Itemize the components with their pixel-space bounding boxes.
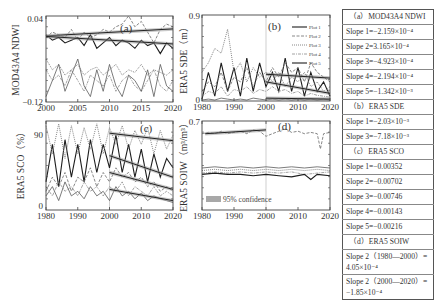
slope-row: Slope 3=−7.18×10⁻³ xyxy=(343,130,434,145)
slope-row: （d）ERA5 SOIW xyxy=(343,235,434,250)
slope-value: Slope 2（1980—2000）= 4.05×10⁻⁴ xyxy=(343,250,434,275)
panel-a-ylabel: MOD43A4 NDWI xyxy=(11,24,21,96)
x-tick-label: 2020 xyxy=(164,103,183,113)
slope-section-header: （d）ERA5 SOIW xyxy=(343,235,434,250)
x-tick-label: 1980 xyxy=(193,211,212,221)
slope-row: Slope 5=−1.342×10⁻³ xyxy=(343,85,434,100)
slope-row: （c）ERA5 SCO xyxy=(343,145,434,160)
slope-row: （b）ERA5 SDE xyxy=(343,100,434,115)
x-tick-label: 2000 xyxy=(37,103,56,113)
confidence-label: 95% confidence xyxy=(223,195,272,204)
slope-value: Slope 2（2000—2020）= −1.85×10⁻⁴ xyxy=(343,275,434,300)
slope-value: Slope 2=3.165×10⁻⁴ xyxy=(343,40,434,55)
slope-row: Slope 2=−0.00702 xyxy=(343,175,434,190)
x-tick-label: 1990 xyxy=(69,211,88,221)
x-tick-label: 1980 xyxy=(193,102,212,112)
x-tick-label: 2005 xyxy=(69,103,88,113)
panel-a-ytick-top: 0.04 xyxy=(27,14,43,24)
slope-row: Slope 5=−0.00216 xyxy=(343,220,434,235)
legend-label: Plot 5 xyxy=(309,61,321,66)
slope-row: Slope 1=−2.159×10⁻⁴ xyxy=(343,25,434,40)
panel-c-ytick-bottom: 0 xyxy=(39,201,44,211)
slope-value: Slope 2=−0.00702 xyxy=(343,175,434,190)
legend-label: Plot 2 xyxy=(309,34,321,39)
slope-section-header: （b）ERA5 SDE xyxy=(343,100,434,115)
slope-value: Slope 1=−2.03×10⁻³ xyxy=(343,115,434,130)
slope-table: （a）MOD43A4 NDWISlope 1=−2.159×10⁻⁴Slope … xyxy=(342,9,434,300)
slope-row: Slope 3=−0.00746 xyxy=(343,190,434,205)
slope-value: Slope 3=−4.923×10⁻⁴ xyxy=(343,55,434,70)
panel-b-tag: (b) xyxy=(268,20,281,33)
panel-c: ERA5 SCO（%） 90 0 19801990200020102020(c) xyxy=(15,121,183,221)
slope-section-header: （a）MOD43A4 NDWI xyxy=(343,10,434,25)
x-tick-label: 2010 xyxy=(101,103,120,113)
slope-value: Slope 3=−0.00746 xyxy=(343,190,434,205)
panel-d-tag: (d) xyxy=(278,120,291,133)
x-tick-label: 2000 xyxy=(257,211,276,221)
slope-row: Slope 4=−0.00143 xyxy=(343,205,434,220)
slope-row: Slope 1=−0.00352 xyxy=(343,160,434,175)
slope-value: Slope 5=−1.342×10⁻³ xyxy=(343,85,434,100)
slope-row: Slope 1=−2.03×10⁻³ xyxy=(343,115,434,130)
x-tick-label: 2010 xyxy=(132,211,151,221)
panel-a-tag: (a) xyxy=(120,22,133,35)
slope-row: Slope 4=−2.194×10⁻⁴ xyxy=(343,70,434,85)
legend-label: Plot 3 xyxy=(309,43,321,48)
series-plot-4 xyxy=(46,70,173,92)
panel-d-ytick-top: 0.7 xyxy=(189,117,201,127)
x-tick-label: 2010 xyxy=(289,102,308,112)
panel-b: ERA5 SDE（m） 0.9 0 19801990200020102020Pl… xyxy=(178,11,340,112)
x-tick-label: 2000 xyxy=(257,102,276,112)
legend-label: Plot 1 xyxy=(309,25,321,30)
slope-value: Slope 4=−2.194×10⁻⁴ xyxy=(343,70,434,85)
panel-c-tag: (c) xyxy=(140,122,153,135)
x-tick-label: 1990 xyxy=(225,102,244,112)
x-tick-label: 2020 xyxy=(321,102,340,112)
panel-c-ylabel: ERA5 SCO（%） xyxy=(15,127,26,200)
panel-c-ytick-top: 90 xyxy=(34,130,44,140)
panel-d-ylabel: ERA5 SOIW（m³/m³） xyxy=(178,118,189,212)
trend-line xyxy=(46,29,173,36)
panel-b-ylabel: ERA5 SDE（m） xyxy=(178,22,189,93)
slope-row: Slope 3=−4.923×10⁻⁴ xyxy=(343,55,434,70)
slope-value: Slope 1=−0.00352 xyxy=(343,160,434,175)
trend-line xyxy=(110,189,174,200)
slope-row: Slope 2=3.165×10⁻⁴ xyxy=(343,40,434,55)
x-tick-label: 1990 xyxy=(225,211,244,221)
x-tick-label: 2010 xyxy=(289,211,308,221)
slope-section-header: （c）ERA5 SCO xyxy=(343,145,434,160)
x-tick-label: 1980 xyxy=(37,211,56,221)
panel-b-ytick-top: 0.9 xyxy=(189,11,201,21)
x-tick-label: 2000 xyxy=(101,211,120,221)
series-plot-3 xyxy=(46,59,173,75)
slope-value: Slope 3=−7.18×10⁻³ xyxy=(343,130,434,145)
slope-row: Slope 2（2000—2020）= −1.85×10⁻⁴ xyxy=(343,275,434,300)
slope-row: Slope 2（1980—2000）= 4.05×10⁻⁴ xyxy=(343,250,434,275)
slope-value: Slope 5=−0.00216 xyxy=(343,220,434,235)
slope-value: Slope 4=−0.00143 xyxy=(343,205,434,220)
legend-label: Plot 4 xyxy=(309,52,321,57)
x-tick-label: 2020 xyxy=(321,211,340,221)
slope-row: （a）MOD43A4 NDWI xyxy=(343,10,434,25)
x-tick-label: 2015 xyxy=(132,103,151,113)
confidence-swatch xyxy=(206,196,221,202)
trend-line xyxy=(110,133,174,140)
panel-a: MOD43A4 NDWI 0.04 −0.12 2000200520102015… xyxy=(11,14,183,113)
panel-d: ERA5 SOIW（m³/m³） 0.7 1980199020002010202… xyxy=(178,117,340,221)
series-plot-5 xyxy=(46,59,173,97)
slope-value: Slope 1=−2.159×10⁻⁴ xyxy=(343,25,434,40)
